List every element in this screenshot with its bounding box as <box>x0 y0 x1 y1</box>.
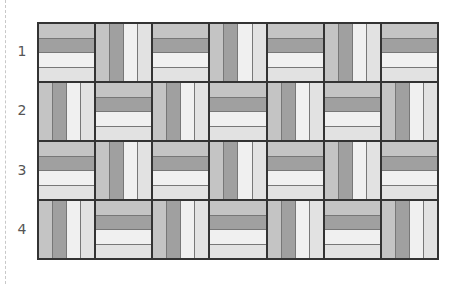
fabric-strip-3 <box>268 170 323 185</box>
fabric-strip-1 <box>210 142 223 199</box>
vertical-strip-block <box>209 141 266 200</box>
fabric-strip-3 <box>39 170 94 185</box>
fabric-strip-2 <box>39 38 94 53</box>
fabric-strip-4 <box>268 67 323 82</box>
fabric-strip-1 <box>96 83 151 97</box>
horizontal-strip-block <box>95 200 152 259</box>
fabric-strip-2 <box>96 215 151 230</box>
fabric-strip-2 <box>281 201 295 258</box>
vertical-strip-block <box>381 82 438 141</box>
fabric-strip-1 <box>382 201 395 258</box>
fabric-strip-2 <box>52 83 66 140</box>
fabric-strip-1 <box>96 24 109 81</box>
vertical-strip-block <box>324 141 381 200</box>
fabric-strip-3 <box>295 201 309 258</box>
fabric-strip-3 <box>39 52 94 67</box>
vertical-strip-block <box>152 200 209 259</box>
fabric-strip-3 <box>237 24 251 81</box>
fabric-strip-4 <box>96 244 151 259</box>
fabric-strip-1 <box>325 201 380 215</box>
fabric-strip-2 <box>382 156 437 171</box>
fabric-strip-4 <box>137 142 151 199</box>
fabric-strip-4 <box>153 185 208 200</box>
fabric-strip-3 <box>66 201 80 258</box>
row-label-2: 2 <box>14 102 30 118</box>
fabric-strip-2 <box>338 24 352 81</box>
fabric-strip-3 <box>352 24 366 81</box>
fabric-strip-1 <box>382 142 437 156</box>
fabric-strip-2 <box>153 38 208 53</box>
horizontal-strip-block <box>152 141 209 200</box>
fabric-strip-1 <box>39 24 94 38</box>
fabric-strip-2 <box>39 156 94 171</box>
fabric-strip-4 <box>210 126 265 141</box>
fabric-strip-4 <box>137 24 151 81</box>
horizontal-strip-block <box>209 82 266 141</box>
dashed-margin-line <box>5 0 6 284</box>
fabric-strip-1 <box>325 24 338 81</box>
fabric-strip-2 <box>395 201 409 258</box>
fabric-strip-4 <box>80 201 94 258</box>
fabric-strip-4 <box>194 201 208 258</box>
fabric-strip-2 <box>109 142 123 199</box>
fabric-strip-3 <box>268 52 323 67</box>
fabric-strip-3 <box>382 170 437 185</box>
vertical-strip-block <box>381 200 438 259</box>
fabric-strip-3 <box>123 142 137 199</box>
horizontal-strip-block <box>267 23 324 82</box>
fabric-strip-3 <box>382 52 437 67</box>
fabric-strip-1 <box>153 201 166 258</box>
horizontal-strip-block <box>152 23 209 82</box>
fabric-strip-4 <box>382 67 437 82</box>
fabric-strip-2 <box>281 83 295 140</box>
vertical-strip-block <box>267 82 324 141</box>
fabric-strip-4 <box>325 244 380 259</box>
fabric-strip-3 <box>180 201 194 258</box>
fabric-strip-2 <box>325 97 380 112</box>
fabric-strip-2 <box>210 97 265 112</box>
fabric-strip-4 <box>309 83 323 140</box>
fabric-strip-3 <box>237 142 251 199</box>
fabric-strip-2 <box>338 142 352 199</box>
fabric-strip-3 <box>325 111 380 126</box>
vertical-strip-block <box>95 141 152 200</box>
fabric-strip-4 <box>210 244 265 259</box>
fabric-strip-1 <box>39 201 52 258</box>
fabric-strip-3 <box>295 83 309 140</box>
fabric-strip-1 <box>268 201 281 258</box>
fabric-strip-2 <box>52 201 66 258</box>
fabric-strip-1 <box>210 83 265 97</box>
row-label-3: 3 <box>14 162 30 178</box>
fabric-strip-2 <box>268 38 323 53</box>
fabric-strip-3 <box>153 170 208 185</box>
fabric-strip-4 <box>366 24 380 81</box>
vertical-strip-block <box>95 23 152 82</box>
fabric-strip-3 <box>325 229 380 244</box>
horizontal-strip-block <box>209 200 266 259</box>
fabric-strip-3 <box>96 111 151 126</box>
fabric-strip-3 <box>210 111 265 126</box>
fabric-strip-4 <box>39 67 94 82</box>
fabric-strip-1 <box>153 24 208 38</box>
fabric-strip-1 <box>382 24 437 38</box>
fabric-strip-4 <box>96 126 151 141</box>
fabric-strip-4 <box>423 201 437 258</box>
horizontal-strip-block <box>95 82 152 141</box>
fabric-strip-4 <box>382 185 437 200</box>
fabric-strip-2 <box>210 215 265 230</box>
vertical-strip-block <box>209 23 266 82</box>
horizontal-strip-block <box>381 141 438 200</box>
fabric-strip-2 <box>153 156 208 171</box>
fabric-strip-4 <box>80 83 94 140</box>
horizontal-strip-block <box>324 200 381 259</box>
fabric-strip-2 <box>96 97 151 112</box>
rail-fence-quilt-grid <box>37 22 439 260</box>
fabric-strip-2 <box>268 156 323 171</box>
horizontal-strip-block <box>38 23 95 82</box>
fabric-strip-1 <box>268 24 323 38</box>
fabric-strip-1 <box>210 24 223 81</box>
fabric-strip-4 <box>268 185 323 200</box>
fabric-strip-3 <box>409 83 423 140</box>
fabric-strip-1 <box>268 142 323 156</box>
horizontal-strip-block <box>267 141 324 200</box>
